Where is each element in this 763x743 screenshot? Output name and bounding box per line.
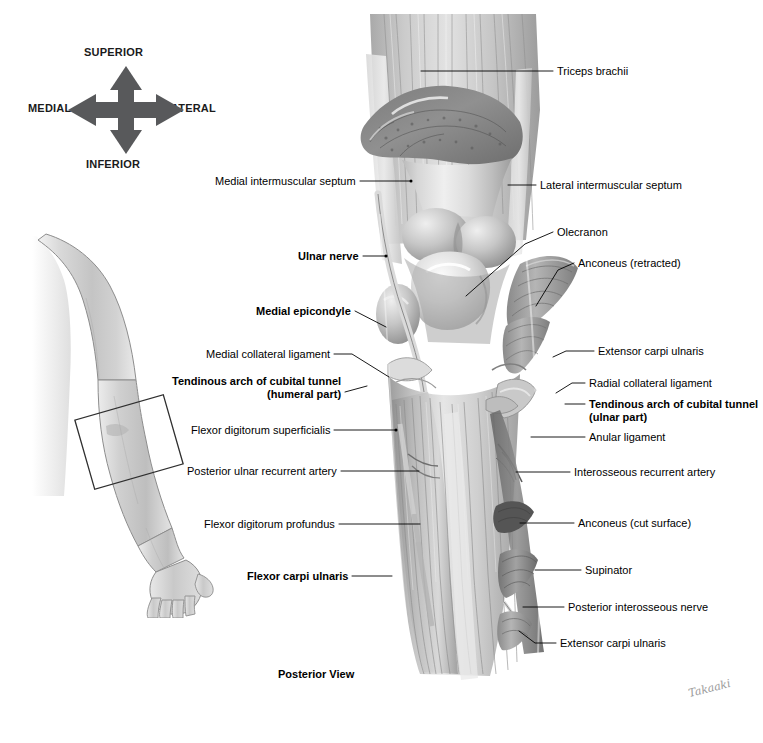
label-line: Flexor digitorum profundus [204, 518, 335, 531]
label-radial-collateral-ligament: Radial collateral ligament [589, 377, 712, 390]
label-line: Olecranon [557, 226, 608, 239]
label-line: (ulnar part) [589, 411, 758, 424]
label-line: Extensor carpi ulnaris [598, 345, 704, 358]
label-line: Medial intermuscular septum [215, 175, 356, 188]
label-line: Supinator [585, 564, 632, 577]
label-line: Flexor carpi ulnaris [247, 570, 348, 583]
compass-label-inferior: INFERIOR [86, 158, 140, 170]
orientation-compass: SUPERIOR INFERIOR MEDIAL LATERAL [28, 46, 228, 172]
compass-cross-arrows [66, 64, 186, 156]
extensor-carpi-ulnaris-upper-shape [503, 317, 550, 373]
artist-signature: Takaaki [687, 677, 732, 700]
label-line: Lateral intermuscular septum [540, 179, 682, 192]
compass-label-superior: SUPERIOR [84, 46, 143, 58]
label-supinator: Supinator [585, 564, 632, 577]
label-triceps-brachii: Triceps brachii [557, 65, 628, 78]
arm-orientation-inset [28, 228, 218, 618]
label-posterior-ulnar-recurrent-artery: Posterior ulnar recurrent artery [187, 465, 337, 478]
label-anular-ligament: Anular ligament [589, 431, 665, 444]
label-interosseous-recurrent-artery: Interosseous recurrent artery [574, 466, 715, 479]
label-lateral-intermuscular-septum: Lateral intermuscular septum [540, 179, 682, 192]
label-line: Interosseous recurrent artery [574, 466, 715, 479]
anconeus-cut-surface-shape [493, 501, 534, 533]
label-line: Anular ligament [589, 431, 665, 444]
label-anconeus-retracted: Anconeus (retracted) [578, 257, 681, 270]
label-line: Ulnar nerve [298, 250, 359, 263]
label-medial-intermuscular-septum: Medial intermuscular septum [215, 175, 356, 188]
label-line: Extensor carpi ulnaris [560, 637, 666, 650]
label-line: Anconeus (cut surface) [578, 517, 691, 530]
label-line: Anconeus (retracted) [578, 257, 681, 270]
label-line: (humeral part) [172, 388, 341, 401]
compass-label-medial: MEDIAL [28, 102, 71, 114]
label-line: Tendinous arch of cubital tunnel [172, 375, 341, 388]
label-medial-collateral-ligament: Medial collateral ligament [206, 348, 330, 361]
label-tendinous-arch-cubital-tunnel-ulnar: Tendinous arch of cubital tunnel(ulnar p… [589, 398, 758, 424]
figure-page: SUPERIOR INFERIOR MEDIAL LATERAL [0, 0, 763, 743]
label-anconeus-cut-surface: Anconeus (cut surface) [578, 517, 691, 530]
elbow-dissection-illustration [340, 14, 580, 686]
label-line: Flexor digitorum superficialis [191, 424, 330, 437]
label-line: Tendinous arch of cubital tunnel [589, 398, 758, 411]
label-extensor-carpi-ulnaris-lower: Extensor carpi ulnaris [560, 637, 666, 650]
label-line: Medial epicondyle [256, 305, 351, 318]
label-flexor-digitorum-superficialis: Flexor digitorum superficialis [191, 424, 330, 437]
label-flexor-carpi-ulnaris: Flexor carpi ulnaris [247, 570, 348, 583]
label-line: Radial collateral ligament [589, 377, 712, 390]
label-olecranon: Olecranon [557, 226, 608, 239]
label-line: Triceps brachii [557, 65, 628, 78]
label-extensor-carpi-ulnaris-upper: Extensor carpi ulnaris [598, 345, 704, 358]
label-medial-epicondyle: Medial epicondyle [256, 305, 351, 318]
label-ulnar-nerve: Ulnar nerve [298, 250, 359, 263]
label-tendinous-arch-cubital-tunnel-humeral: Tendinous arch of cubital tunnel(humeral… [172, 375, 341, 401]
tendinous-arch-humeral-shape [388, 358, 432, 381]
label-line: Posterior ulnar recurrent artery [187, 465, 337, 478]
label-flexor-digitorum-profundus: Flexor digitorum profundus [204, 518, 335, 531]
label-line: Medial collateral ligament [206, 348, 330, 361]
label-line: Posterior interosseous nerve [568, 601, 708, 614]
label-posterior-interosseous-nerve: Posterior interosseous nerve [568, 601, 708, 614]
view-caption: Posterior View [278, 668, 354, 680]
